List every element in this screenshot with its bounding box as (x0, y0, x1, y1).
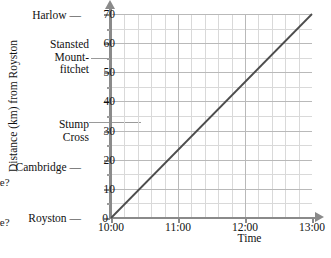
chart-figure: ge? ge? Distance (km) from Royston Harlo… (0, 0, 331, 258)
place-label-stump-cross: Stump Cross (59, 118, 89, 143)
y-tick-minor-35 (107, 116, 110, 118)
y-tick-minor-25 (107, 145, 110, 147)
clipped-question-text-2: ge? (0, 216, 10, 228)
y-tick-minor-45 (107, 87, 110, 89)
place-label-stansted-mountfitchet: Stansted Mount- fitchet (50, 38, 89, 76)
y-axis-title: Distance (km) from Royston (7, 1, 19, 211)
x-axis-title: Time (0, 232, 331, 244)
y-tick-label-30: 30 (104, 125, 116, 137)
y-tick-minor-55 (107, 58, 110, 60)
distance-time-line (111, 14, 316, 219)
y-tick-label-10: 10 (104, 183, 116, 195)
y-tick-label-20: 20 (104, 154, 116, 166)
y-tick-label-40: 40 (104, 95, 116, 107)
y-tick-minor-65 (107, 29, 110, 31)
y-tick-label-50: 50 (104, 66, 116, 78)
plot-area (111, 14, 316, 218)
place-label-royston: Royston — (28, 212, 82, 225)
place-label-harlow: Harlow — (32, 9, 82, 22)
y-tick-label-70: 70 (104, 8, 116, 20)
y-tick-minor-15 (107, 174, 110, 176)
y-tick-label-60: 60 (104, 37, 116, 49)
y-tick-minor-5 (107, 203, 110, 205)
place-label-cambridge: Cambridge — (16, 161, 82, 174)
